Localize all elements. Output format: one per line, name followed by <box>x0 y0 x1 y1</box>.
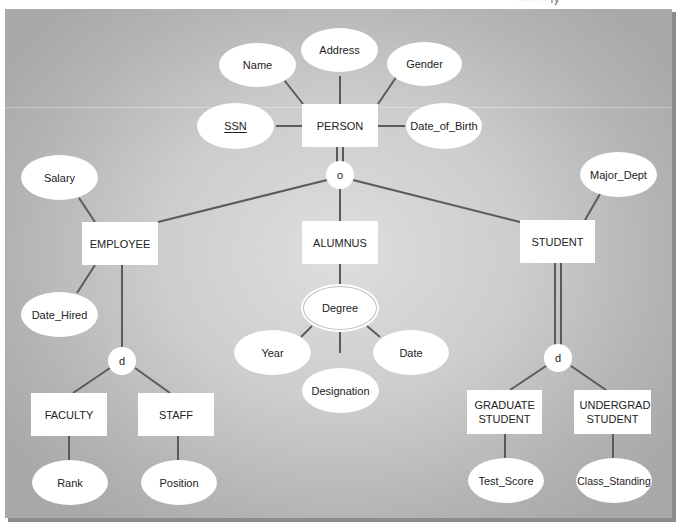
attr-test-score[interactable]: Test_Score <box>468 458 544 503</box>
attr-rank[interactable]: Rank <box>32 460 108 505</box>
attr-date-hired-label: Date_Hired <box>32 308 88 322</box>
attr-class-standing-label: Class_Standing <box>577 474 651 488</box>
attr-date-of-birth-label: Date_of_Birth <box>410 119 477 133</box>
entity-staff[interactable]: STAFF <box>138 393 214 436</box>
disjoint-symbol-employee: d <box>119 354 125 368</box>
attr-year-label: Year <box>261 346 283 360</box>
entity-employee[interactable]: EMPLOYEE <box>82 222 158 265</box>
attr-degree-label: Degree <box>322 301 358 315</box>
entity-person-label: PERSON <box>317 119 363 133</box>
attr-gender-label: Gender <box>406 57 443 71</box>
disjoint-symbol-student: d <box>555 351 561 365</box>
specialization-disjoint-circle-student[interactable]: d <box>544 344 572 372</box>
attr-designation[interactable]: Designation <box>302 368 379 413</box>
attr-rank-label: Rank <box>57 476 83 490</box>
attr-major-dept-label: Major_Dept <box>590 168 647 182</box>
attr-position[interactable]: Position <box>141 460 217 505</box>
attr-date[interactable]: Date <box>373 330 449 375</box>
specialization-overlap-circle[interactable]: o <box>326 161 354 189</box>
entity-person[interactable]: PERSON <box>302 104 378 147</box>
attr-ssn-key[interactable]: SSN <box>197 103 274 149</box>
entity-undergrad-student-label: UNDERGRAD STUDENT <box>580 398 646 426</box>
entity-student-label: STUDENT <box>532 235 584 249</box>
entity-graduate-student-label: GRADUATE STUDENT <box>475 398 535 426</box>
entity-faculty[interactable]: FACULTY <box>31 393 107 436</box>
entity-employee-label: EMPLOYEE <box>90 237 151 251</box>
attr-date-of-birth[interactable]: Date_of_Birth <box>406 103 482 149</box>
attr-test-score-label: Test_Score <box>478 474 533 488</box>
attr-date-hired[interactable]: Date_Hired <box>21 292 98 337</box>
attr-position-label: Position <box>159 476 198 490</box>
attr-date-label: Date <box>399 346 422 360</box>
entity-staff-label: STAFF <box>159 408 193 422</box>
specialization-disjoint-circle-employee[interactable]: d <box>108 347 136 375</box>
entity-faculty-label: FACULTY <box>45 408 94 422</box>
attr-name[interactable]: Name <box>219 43 296 87</box>
attr-address-label: Address <box>319 43 359 57</box>
entity-alumnus-label: ALUMNUS <box>313 236 367 250</box>
attr-ssn-label: SSN <box>224 119 247 133</box>
attr-gender[interactable]: Gender <box>387 42 462 86</box>
entity-graduate-student[interactable]: GRADUATE STUDENT <box>467 390 542 434</box>
entity-undergrad-student[interactable]: UNDERGRAD STUDENT <box>574 390 651 434</box>
attr-salary-label: Salary <box>44 171 75 185</box>
attr-address[interactable]: Address <box>301 28 378 72</box>
attr-class-standing[interactable]: Class_Standing <box>576 458 652 503</box>
attr-degree-multivalued[interactable]: Degree <box>301 284 379 332</box>
entity-alumnus[interactable]: ALUMNUS <box>302 221 378 264</box>
entity-student[interactable]: STUDENT <box>520 220 595 263</box>
attr-name-label: Name <box>243 58 272 72</box>
attr-designation-label: Designation <box>311 384 369 398</box>
overlap-symbol: o <box>337 168 343 182</box>
attr-salary[interactable]: Salary <box>21 155 98 200</box>
attr-year[interactable]: Year <box>234 330 311 375</box>
attr-major-dept[interactable]: Major_Dept <box>580 152 657 197</box>
